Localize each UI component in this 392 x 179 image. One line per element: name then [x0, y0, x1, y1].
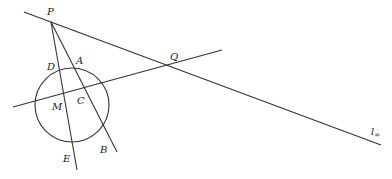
- circle: [35, 68, 109, 142]
- secant-line-mcq: [13, 50, 222, 107]
- label-l-infinity: l∞: [371, 126, 380, 139]
- line-p-a-c-b: [51, 22, 117, 152]
- projective-geometry-diagram: P Q A D M C E B l∞: [0, 0, 392, 179]
- label-d: D: [46, 61, 55, 72]
- label-m: M: [51, 101, 63, 112]
- line-at-infinity: [24, 12, 381, 145]
- label-a: A: [75, 55, 83, 66]
- label-c: C: [77, 95, 85, 106]
- label-e: E: [62, 153, 71, 164]
- label-p: P: [46, 6, 54, 17]
- label-b: B: [99, 144, 107, 155]
- label-infinity-subscript: ∞: [374, 131, 380, 139]
- label-q: Q: [170, 51, 178, 62]
